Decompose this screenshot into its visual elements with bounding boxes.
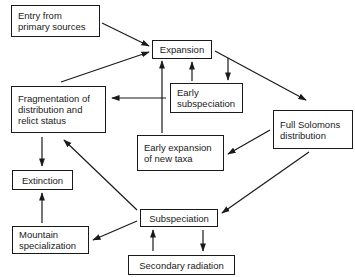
arrow-subspeciation-to-mountain: [93, 221, 137, 240]
arrow-fragmentation-to-expansion: [61, 52, 149, 82]
node-early-expansion: Early expansion of new taxa: [137, 135, 224, 171]
node-full-solomons: Full Solomons distribution: [273, 110, 353, 149]
node-secondary-label: Secondary radiation: [139, 260, 224, 271]
arrow-subspeciation-to-fragmentation: [64, 140, 137, 210]
node-secondary: Secondary radiation: [128, 255, 235, 275]
node-entry-label: Entry from primary sources: [18, 10, 86, 32]
node-early-expansion-label: Early expansion of new taxa: [144, 142, 212, 164]
node-fragmentation-label: Fragmentation of distribution and relict…: [18, 93, 90, 126]
arrow-full-solomons-to-early-expansion: [228, 130, 270, 154]
node-extinction-label: Extinction: [22, 175, 63, 186]
node-fragmentation: Fragmentation of distribution and relict…: [11, 86, 106, 133]
node-entry: Entry from primary sources: [11, 5, 100, 37]
node-expansion-label: Expansion: [160, 44, 204, 55]
node-subspeciation-label: Subspeciation: [149, 213, 209, 224]
node-mountain-label: Mountain specialization: [19, 229, 76, 251]
arrow-entry-to-expansion: [102, 23, 149, 46]
node-early-subspeciation: Early subspeciation: [170, 83, 243, 113]
node-subspeciation: Subspeciation: [140, 209, 218, 227]
node-extinction: Extinction: [12, 170, 73, 190]
node-full-solomons-label: Full Solomons distribution: [280, 119, 340, 141]
node-early-subspeciation-label: Early subspeciation: [177, 87, 235, 109]
node-mountain: Mountain specialization: [12, 226, 89, 254]
arrow-full-solomons-to-subspeciation: [222, 152, 309, 213]
node-expansion: Expansion: [152, 40, 212, 59]
